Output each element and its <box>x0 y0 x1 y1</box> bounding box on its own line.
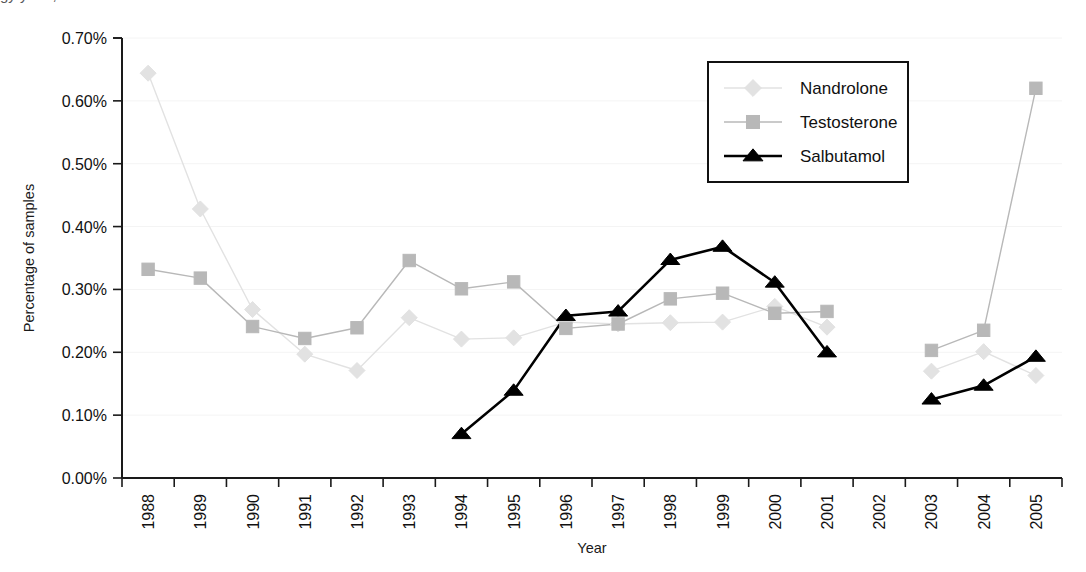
chart-figure: gy y o t , 0.00%0.10%0.20%0.30%0.40%0.50… <box>0 0 1086 572</box>
square-marker <box>299 332 311 344</box>
legend-label-testosterone[interactable]: Testosterone <box>800 113 897 132</box>
legend-label-salbutamol[interactable]: Salbutamol <box>800 147 885 166</box>
diamond-marker <box>192 201 208 217</box>
square-marker <box>821 305 833 317</box>
x-tick-label: 2001 <box>819 494 836 530</box>
x-tick-label: 1996 <box>558 494 575 530</box>
y-tick-label: 0.30% <box>62 281 107 298</box>
y-axis-tick-labels: 0.00%0.10%0.20%0.30%0.40%0.50%0.60%0.70% <box>62 30 107 487</box>
x-tick-label: 1999 <box>715 494 732 530</box>
diamond-marker <box>506 330 522 346</box>
x-tick-label: 1990 <box>245 494 262 530</box>
diamond-marker <box>923 363 939 379</box>
square-marker <box>455 283 467 295</box>
y-tick-label: 0.40% <box>62 219 107 236</box>
triangle-marker <box>504 384 523 395</box>
diamond-marker <box>976 344 992 360</box>
y-tick-label: 0.20% <box>62 344 107 361</box>
triangle-marker <box>1026 350 1045 361</box>
diamond-marker <box>453 331 469 347</box>
square-marker <box>1030 82 1042 94</box>
triangle-marker <box>713 240 732 251</box>
square-marker <box>194 272 206 284</box>
square-marker <box>716 287 728 299</box>
y-gridlines <box>122 38 1062 415</box>
x-tick-label: 2004 <box>976 494 993 530</box>
square-marker <box>142 263 154 275</box>
y-tick-label: 0.70% <box>62 30 107 47</box>
x-tick-label: 1992 <box>349 494 366 530</box>
square-marker <box>560 322 572 334</box>
line-chart: 0.00%0.10%0.20%0.30%0.40%0.50%0.60%0.70%… <box>0 0 1086 572</box>
x-tick-label: 1988 <box>140 494 157 530</box>
x-tick-label: 1989 <box>192 494 209 530</box>
series-markers <box>140 65 1045 438</box>
square-marker <box>925 344 937 356</box>
square-marker <box>403 254 415 266</box>
x-tick-label: 1993 <box>401 494 418 530</box>
x-axis-title: Year <box>577 540 606 556</box>
x-tick-label: 1995 <box>506 494 523 530</box>
square-marker <box>612 318 624 330</box>
square-marker <box>246 320 258 332</box>
y-tick-label: 0.10% <box>62 407 107 424</box>
triangle-marker <box>818 345 837 356</box>
diamond-marker <box>715 314 731 330</box>
x-tick-label: 1991 <box>297 494 314 530</box>
x-tick-label: 1997 <box>610 494 627 530</box>
x-tick-label: 2005 <box>1028 494 1045 530</box>
legend-label-nandrolone[interactable]: Nandrolone <box>800 79 888 98</box>
y-axis-ticks <box>113 38 122 478</box>
x-axis-tick-labels: 1988198919901991199219931994199519961997… <box>140 494 1045 530</box>
diamond-marker <box>140 65 156 81</box>
x-axis-ticks <box>122 478 1062 487</box>
y-tick-label: 0.00% <box>62 470 107 487</box>
x-tick-label: 2003 <box>923 494 940 530</box>
diamond-marker <box>819 319 835 335</box>
diamond-marker <box>1028 368 1044 384</box>
y-axis-title: Percentage of samples <box>21 184 37 332</box>
axis-lines <box>113 38 1062 478</box>
square-marker <box>977 324 989 336</box>
square-marker <box>507 276 519 288</box>
square-marker <box>351 322 363 334</box>
y-tick-label: 0.50% <box>62 156 107 173</box>
square-marker <box>769 307 781 319</box>
x-tick-label: 1998 <box>662 494 679 530</box>
square-marker <box>746 115 759 128</box>
x-tick-label: 2002 <box>871 494 888 530</box>
y-tick-label: 0.60% <box>62 93 107 110</box>
x-tick-label: 2000 <box>767 494 784 530</box>
chart-legend[interactable]: NandroloneTestosteroneSalbutamol <box>708 62 908 182</box>
square-marker <box>664 293 676 305</box>
diamond-marker <box>662 315 678 331</box>
x-tick-label: 1994 <box>453 494 470 530</box>
series-line-testosterone <box>931 88 1035 350</box>
